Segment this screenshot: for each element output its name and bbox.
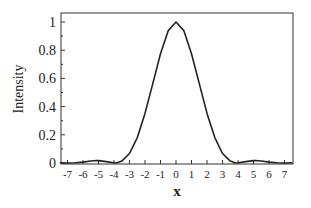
intensity-curve <box>60 22 292 163</box>
y-tick-label: 1 <box>49 15 56 30</box>
x-tick-label: -3 <box>125 168 135 180</box>
y-axis-title: Intensity <box>11 65 26 114</box>
x-tick-label: 4 <box>235 168 241 180</box>
x-tick-label: 5 <box>251 168 257 180</box>
x-axis-title: x <box>173 183 181 199</box>
y-tick-label: 0.4 <box>39 100 57 115</box>
x-tick-label: -1 <box>156 168 165 180</box>
y-tick-label: 0.6 <box>39 71 57 86</box>
x-axis-ticks: -7-6-5-4-3-2-101234567 <box>63 160 288 180</box>
x-tick-label: 2 <box>204 168 210 180</box>
x-tick-label: -5 <box>94 168 104 180</box>
x-tick-label: -2 <box>140 168 149 180</box>
x-tick-label: -6 <box>78 168 88 180</box>
intensity-chart: 00.20.40.60.81 -7-6-5-4-3-2-101234567 In… <box>0 0 311 208</box>
y-tick-label: 0 <box>49 156 56 171</box>
x-tick-label: 0 <box>173 168 179 180</box>
x-tick-label: -4 <box>109 168 119 180</box>
x-tick-label: 3 <box>220 168 226 180</box>
x-tick-label: 1 <box>189 168 195 180</box>
y-tick-label: 0.2 <box>39 128 57 143</box>
x-tick-label: -7 <box>63 168 73 180</box>
plot-frame <box>61 13 293 164</box>
y-tick-label: 0.8 <box>39 43 57 58</box>
x-tick-label: 7 <box>282 168 288 180</box>
x-tick-label: 6 <box>266 168 272 180</box>
